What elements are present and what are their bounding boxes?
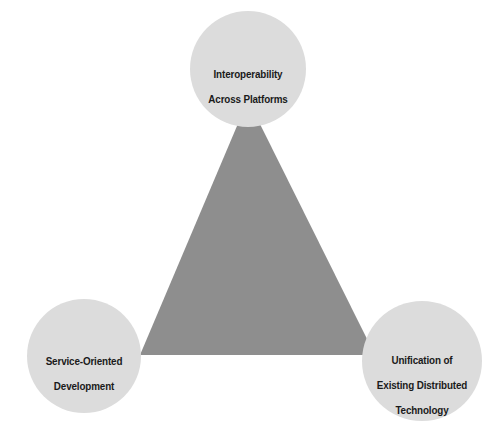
node-circle-service-oriented-development[interactable]	[27, 299, 141, 413]
triangle-diagram-graphic	[0, 0, 496, 429]
node-circle-unification-existing-distributed-technology[interactable]	[362, 301, 482, 421]
diagram-canvas: Interoperability Across Platforms Servic…	[0, 0, 496, 429]
central-triangle-shape	[140, 100, 375, 355]
node-circle-interoperability[interactable]	[190, 11, 306, 127]
